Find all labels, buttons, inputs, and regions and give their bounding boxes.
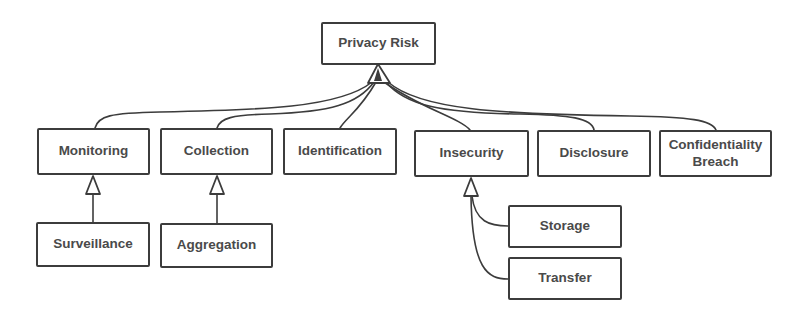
node-privacy-risk[interactable]: Privacy Risk	[321, 22, 436, 65]
edge-monitoring-to-root	[95, 82, 372, 128]
diagram-canvas: Privacy Risk Monitoring Collection Ident…	[0, 0, 805, 321]
edge-confidentiality-to-root	[388, 82, 716, 130]
node-disclosure[interactable]: Disclosure	[537, 130, 651, 177]
node-label: Privacy Risk	[338, 35, 418, 52]
node-collection[interactable]: Collection	[160, 128, 273, 175]
node-label: Aggregation	[177, 237, 257, 254]
node-label: Insecurity	[440, 145, 504, 162]
edge-transfer-to-insecurity	[471, 196, 508, 279]
node-label-line1: Confidentiality	[669, 137, 763, 154]
node-confidentiality-breach[interactable]: Confidentiality Breach	[659, 130, 772, 177]
arrowhead-monitoring-icon	[86, 176, 100, 194]
node-label-line2: Breach	[693, 154, 739, 171]
node-surveillance[interactable]: Surveillance	[36, 222, 150, 267]
node-label: Surveillance	[53, 236, 133, 253]
node-transfer[interactable]: Transfer	[508, 257, 622, 300]
node-label: Identification	[298, 143, 382, 160]
node-monitoring[interactable]: Monitoring	[37, 128, 150, 175]
arrowhead-collection-icon	[210, 176, 224, 194]
node-label: Storage	[540, 218, 590, 235]
node-label: Disclosure	[559, 145, 628, 162]
arrowhead-insecurity-icon	[464, 178, 478, 196]
node-label: Monitoring	[59, 143, 129, 160]
node-insecurity[interactable]: Insecurity	[414, 130, 529, 177]
node-label: Transfer	[538, 270, 591, 287]
edge-disclosure-to-root	[386, 82, 594, 130]
node-storage[interactable]: Storage	[508, 205, 622, 248]
node-label: Collection	[184, 143, 249, 160]
edge-storage-to-insecurity	[472, 196, 508, 226]
node-aggregation[interactable]: Aggregation	[160, 223, 273, 268]
edge-identification-to-root	[340, 82, 376, 128]
node-identification[interactable]: Identification	[283, 128, 397, 175]
